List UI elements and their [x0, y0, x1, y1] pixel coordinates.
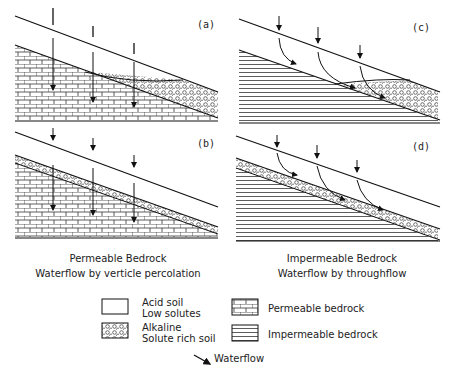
panel-d-label: (d) [412, 141, 430, 152]
panel-c: (c) [239, 16, 440, 123]
legend-alkaline-line2: Solute rich soil [142, 333, 216, 344]
legend: Acid soil Low solutes Alkaline Solute ri… [102, 297, 378, 364]
panel-a-label: (a) [197, 19, 215, 30]
caption-right-line1: Impermeable Bedrock [287, 253, 397, 264]
panel-b: (b) [15, 128, 218, 238]
permeable-bedrock-swatch [232, 299, 258, 315]
acid-soil-swatch [102, 299, 128, 314]
panel-a: (a) [15, 8, 218, 121]
legend-impermeable: Impermeable bedrock [268, 329, 378, 340]
panel-c-label: (c) [412, 22, 430, 33]
caption-left-line2: Waterflow by verticle percolation [35, 268, 200, 279]
alkaline-soil-swatch [102, 323, 128, 338]
caption-left-line1: Permeable Bedrock [70, 253, 167, 264]
soil-diagram: (a) (b) (c) [0, 0, 457, 382]
panel-b-label: (b) [197, 138, 215, 149]
panel-d: (d) [236, 135, 440, 241]
impermeable-bedrock-swatch [232, 325, 258, 341]
legend-acid-line1: Acid soil [142, 297, 183, 308]
legend-waterflow: Waterflow [214, 353, 264, 364]
legend-permeable: Permeable bedrock [268, 303, 365, 314]
waterflow-arrow-icon [194, 355, 210, 364]
legend-acid-line2: Low solutes [142, 308, 201, 319]
caption-right-line2: Waterflow by throughflow [278, 268, 407, 279]
legend-alkaline-line1: Alkaline [142, 322, 181, 333]
